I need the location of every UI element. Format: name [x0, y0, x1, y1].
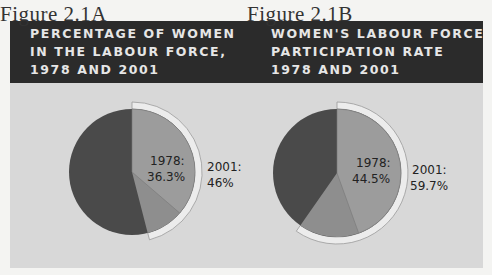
chart-title-b: WOMEN'S LABOUR FORCE PARTICIPATION RATE … — [271, 25, 484, 79]
chart-title-a: PERCENTAGE OF WOMEN IN THE LABOUR FORCE,… — [30, 25, 236, 79]
pie-b-1978-label-line1: 1978: — [356, 156, 391, 170]
pie-b-2001-label-line1: 2001: — [412, 163, 447, 177]
pie-b-2001-label-line2: 59.7% — [410, 179, 448, 193]
pie-b-1978-label-line2: 44.5% — [352, 172, 390, 186]
figure-label-b: Figure 2.1B — [247, 2, 353, 27]
pie-a-2001-label-line2: 46% — [207, 176, 234, 190]
pie-a-2001-label-line1: 2001: — [207, 160, 242, 174]
figure-label-a: Figure 2.1A — [0, 2, 107, 27]
pie-a-1978-label-line2: 36.3% — [147, 170, 185, 184]
pie-a-1978-label-line1: 1978: — [150, 154, 185, 168]
pie-chart-b: 1978: 44.5% 2001: 59.7% — [273, 102, 448, 244]
pie-chart-a: 1978: 36.3% 2001: 46% — [69, 102, 242, 240]
